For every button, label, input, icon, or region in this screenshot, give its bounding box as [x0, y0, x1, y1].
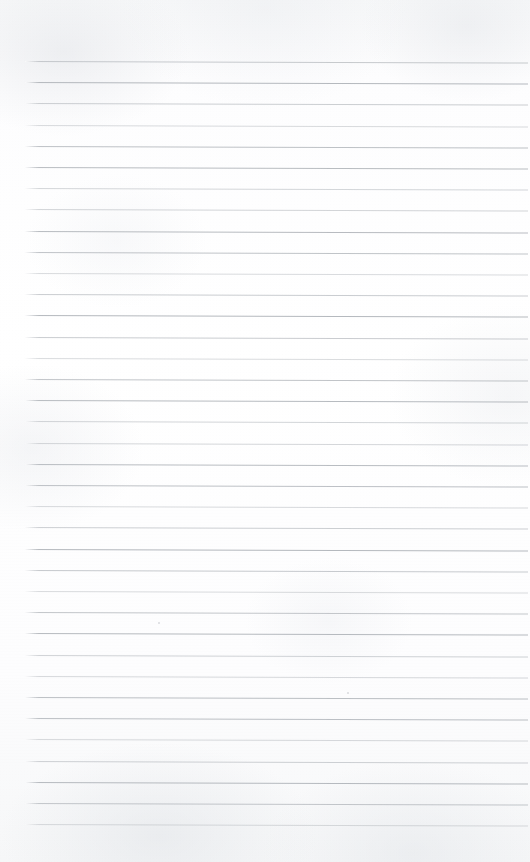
rule-line — [25, 464, 528, 467]
rule-line — [25, 739, 528, 742]
rule-line — [25, 167, 528, 170]
rule-line — [25, 209, 528, 212]
rule-line — [25, 61, 528, 64]
rule-line — [25, 591, 528, 594]
rule-line — [25, 824, 528, 827]
rule-line — [25, 379, 528, 382]
rule-line — [25, 125, 528, 128]
rule-line — [25, 82, 528, 85]
paper-speck — [347, 692, 349, 694]
rule-line — [25, 315, 528, 318]
rule-line — [25, 697, 528, 700]
rule-line — [25, 421, 528, 424]
rule-line — [25, 146, 528, 149]
rule-line — [25, 527, 528, 530]
rule-line — [25, 718, 528, 721]
rule-line — [25, 273, 528, 276]
rule-line — [25, 506, 528, 509]
rule-line — [25, 231, 528, 234]
rule-line — [25, 612, 528, 615]
rule-line — [25, 655, 528, 658]
rule-line — [25, 633, 528, 636]
rule-line — [25, 782, 528, 785]
rule-line — [25, 337, 528, 340]
rule-line — [25, 549, 528, 552]
rule-line — [25, 103, 528, 106]
rule-line — [25, 400, 528, 403]
rule-line — [25, 358, 528, 361]
ruled-lines-group — [0, 0, 530, 862]
rule-line — [25, 803, 528, 806]
notebook-page — [0, 0, 530, 862]
rule-line — [25, 252, 528, 255]
rule-line — [25, 485, 528, 488]
rule-line — [25, 676, 528, 679]
rule-line — [25, 570, 528, 573]
rule-line — [25, 188, 528, 191]
rule-line — [25, 443, 528, 446]
rule-line — [25, 294, 528, 297]
paper-speck — [158, 622, 160, 624]
rule-line — [25, 761, 528, 764]
